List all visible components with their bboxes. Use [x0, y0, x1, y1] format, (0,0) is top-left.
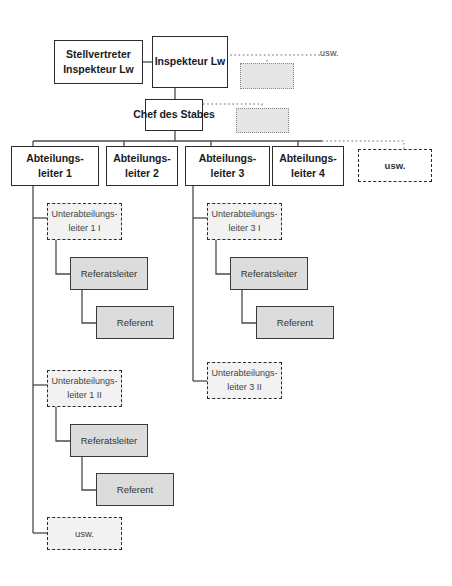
- link-reflead3-referent3: [242, 290, 256, 323]
- node-dept-2-line2: leiter 2: [125, 166, 159, 181]
- node-referatsleiter-2-label: Referatsleiter: [81, 434, 138, 448]
- node-dept-1-line1: Abteilungs-: [26, 151, 84, 166]
- link-reflead1-referent1: [82, 290, 96, 323]
- node-bottom-more-label: usw.: [75, 527, 94, 541]
- node-dept-3[interactable]: Abteilungs- leiter 3: [185, 146, 270, 186]
- node-referent-2-label: Referent: [117, 483, 153, 497]
- node-dept-3-line2: leiter 3: [211, 166, 245, 181]
- node-inspector-line1: Inspekteur Lw: [155, 54, 226, 69]
- node-referatsleiter-2[interactable]: Referatsleiter: [70, 424, 148, 457]
- node-dept-4[interactable]: Abteilungs- leiter 4: [272, 146, 344, 186]
- node-dept-more-label: usw.: [385, 159, 406, 173]
- node-dept-3-line1: Abteilungs-: [199, 151, 257, 166]
- node-deputy-line1: Stellvertreter: [66, 47, 131, 62]
- node-referent-2[interactable]: Referent: [96, 473, 174, 506]
- node-sub-3-2-line1: Unterabteilungs-: [211, 367, 277, 380]
- node-placeholder-inspector[interactable]: [240, 63, 294, 89]
- node-referatsleiter-1[interactable]: Referatsleiter: [70, 257, 148, 290]
- node-dept-2[interactable]: Abteilungs- leiter 2: [106, 146, 178, 186]
- node-referatsleiter-3-label: Referatsleiter: [241, 267, 298, 281]
- node-referent-1[interactable]: Referent: [96, 306, 174, 339]
- node-sub-1-2-line2: leiter 1 II: [67, 389, 102, 402]
- node-chief-line1: Chef des Stabes: [133, 107, 215, 122]
- node-chief-of-staff[interactable]: Chef des Stabes: [145, 99, 203, 131]
- node-sub-3-2-line2: leiter 3 II: [227, 381, 262, 394]
- node-sub-3-2[interactable]: Unterabteilungs- leiter 3 II: [207, 362, 282, 399]
- node-sub-3-1[interactable]: Unterabteilungs- leiter 3 I: [207, 203, 282, 240]
- node-dept-1[interactable]: Abteilungs- leiter 1: [11, 146, 99, 186]
- label-usw-top: usw.: [320, 48, 339, 58]
- node-deputy-inspector[interactable]: Stellvertreter Inspekteur Lw: [54, 40, 143, 84]
- link-reflead2-referent2: [82, 457, 96, 490]
- node-referatsleiter-3[interactable]: Referatsleiter: [230, 257, 308, 290]
- node-sub-1-1-line1: Unterabteilungs-: [51, 208, 117, 221]
- node-sub-3-1-line1: Unterabteilungs-: [211, 208, 277, 221]
- node-sub-1-1-line2: leiter 1 I: [68, 222, 100, 235]
- org-chart: Stellvertreter Inspekteur Lw Inspekteur …: [0, 0, 452, 586]
- node-referent-3[interactable]: Referent: [256, 306, 334, 339]
- node-sub-1-1[interactable]: Unterabteilungs- leiter 1 I: [47, 203, 122, 240]
- node-referent-1-label: Referent: [117, 316, 153, 330]
- node-dept-4-line1: Abteilungs-: [279, 151, 337, 166]
- node-dept-1-line2: leiter 1: [38, 166, 72, 181]
- node-sub-1-2-line1: Unterabteilungs-: [51, 375, 117, 388]
- node-sub-3-1-line2: leiter 3 I: [228, 222, 260, 235]
- node-inspector[interactable]: Inspekteur Lw: [152, 36, 228, 88]
- node-referent-3-label: Referent: [277, 316, 313, 330]
- link-sub3-1-reflead: [216, 240, 230, 274]
- link-sub1-2-reflead: [56, 407, 70, 441]
- node-dept-more[interactable]: usw.: [358, 149, 432, 182]
- node-referatsleiter-1-label: Referatsleiter: [81, 267, 138, 281]
- node-dept-4-line2: leiter 4: [291, 166, 325, 181]
- node-placeholder-chief[interactable]: [236, 108, 289, 133]
- node-deputy-line2: Inspekteur Lw: [63, 62, 134, 77]
- node-dept-2-line1: Abteilungs-: [113, 151, 171, 166]
- link-sub1-1-reflead: [56, 240, 70, 274]
- node-sub-1-2[interactable]: Unterabteilungs- leiter 1 II: [47, 370, 122, 407]
- node-bottom-more[interactable]: usw.: [47, 517, 122, 550]
